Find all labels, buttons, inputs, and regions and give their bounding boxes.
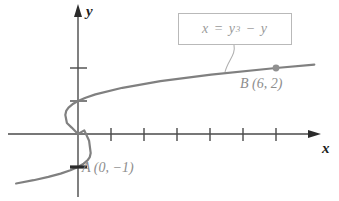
equation-lhs: x (202, 21, 209, 37)
equation-callout-box: x = y3 − y (178, 13, 292, 45)
x-axis-arrowhead (308, 130, 321, 138)
point-b-label: B (6, 2) (240, 76, 282, 92)
point-a-label: A (0, −1) (82, 160, 134, 176)
point-b-marker (273, 65, 280, 72)
equation-operator: − (241, 21, 260, 37)
equation-tail: y (261, 21, 268, 37)
x-axis-label: x (322, 140, 330, 157)
graph-figure: x = y3 − y y x B (6, 2) A (0, −1) (0, 0, 339, 201)
callout-leader-line (225, 45, 234, 72)
y-axis-label: y (86, 3, 93, 20)
equation-rhs-base: y (229, 21, 236, 37)
equation-equals: = (209, 21, 228, 37)
equation-text: x = y3 − y (179, 14, 291, 44)
y-axis-arrowhead (74, 4, 82, 17)
